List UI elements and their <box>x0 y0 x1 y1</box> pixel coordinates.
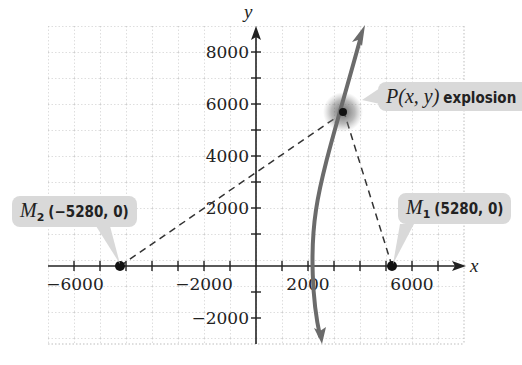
y-axis-label: y <box>242 1 253 22</box>
point-m2 <box>115 261 125 271</box>
x-axis-label: x <box>469 255 479 276</box>
x-tick-label: 2000 <box>286 274 329 294</box>
x-tick-label: −6000 <box>46 274 104 294</box>
y-tick-label: −2000 <box>191 308 249 328</box>
point-m1 <box>387 261 397 271</box>
callout-m1: M1 (5280, 0) <box>398 193 511 224</box>
p-desc: explosion <box>443 89 516 107</box>
m2-subscript: 2 <box>37 211 45 224</box>
point-p <box>339 108 347 116</box>
callout-p: P(x, y) explosion <box>378 82 522 111</box>
p-name: P(x, y) <box>386 85 439 107</box>
x-tick-label: 6000 <box>390 274 433 294</box>
m1-name: M <box>406 196 423 218</box>
y-tick-label: 6000 <box>206 94 249 114</box>
y-tick-label: 4000 <box>206 146 249 166</box>
m1-subscript: 1 <box>423 208 431 221</box>
y-tick-label: 2000 <box>206 198 249 218</box>
m2-name: M <box>20 199 37 221</box>
x-tick-label: −2000 <box>175 274 233 294</box>
callout-m2: M2 (−5280, 0) <box>12 196 137 227</box>
m2-coords: (−5280, 0) <box>48 203 128 221</box>
m1-coords: (5280, 0) <box>434 200 503 218</box>
y-tick-label: 8000 <box>206 42 249 62</box>
